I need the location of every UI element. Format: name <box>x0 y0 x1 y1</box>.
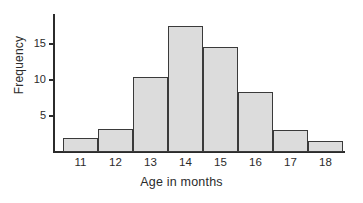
bar-15 <box>203 47 238 152</box>
bar-12 <box>98 129 133 152</box>
histogram-figure: 15 10 5 11 12 13 14 15 16 17 18 Age in m… <box>0 0 363 203</box>
x-axis-title: Age in months <box>0 175 363 189</box>
x-tick-label-12: 12 <box>98 156 133 169</box>
bar-13 <box>133 77 168 152</box>
x-tick-label-16: 16 <box>238 156 273 169</box>
x-tick-label-17: 17 <box>273 156 308 169</box>
x-tick-label-13: 13 <box>133 156 168 169</box>
plot-area: 15 10 5 11 12 13 14 15 16 17 18 Age in m… <box>0 0 363 203</box>
bar-18 <box>308 141 343 152</box>
bar-17 <box>273 130 308 152</box>
bar-11 <box>63 138 98 152</box>
y-axis-title: Frequency <box>12 15 26 115</box>
x-tick-label-18: 18 <box>308 156 343 169</box>
bar-14 <box>168 26 203 152</box>
x-tick-label-15: 15 <box>203 156 238 169</box>
x-tick-label-14: 14 <box>168 156 203 169</box>
x-tick-label-11: 11 <box>63 156 98 169</box>
bar-16 <box>238 92 273 152</box>
bar-series <box>0 0 363 203</box>
